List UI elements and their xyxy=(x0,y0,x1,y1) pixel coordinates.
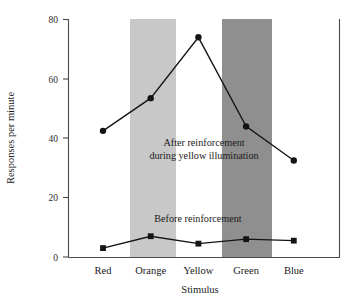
data-point-green xyxy=(243,236,249,242)
data-point-blue xyxy=(291,157,297,163)
y-axis-title: Responses per minute xyxy=(5,92,16,184)
data-point-red xyxy=(100,128,106,134)
y-tick-label-60: 60 xyxy=(49,75,59,85)
x-category-label-red: Red xyxy=(95,265,113,276)
data-point-red xyxy=(100,245,106,251)
x-category-label-green: Green xyxy=(233,265,259,276)
data-point-green xyxy=(243,123,249,129)
data-point-orange xyxy=(148,95,154,101)
y-tick-label-40: 40 xyxy=(49,134,59,144)
x-category-label-yellow: Yellow xyxy=(183,265,213,276)
chart-figure: 80 60 40 20 0 Responses per minute After… xyxy=(0,0,358,308)
line-chart-svg: 80 60 40 20 0 Responses per minute After… xyxy=(0,0,358,308)
y-tick-label-20: 20 xyxy=(49,193,59,203)
x-category-label-blue: Blue xyxy=(284,265,304,276)
before-annotation: Before reinforcement xyxy=(154,213,242,224)
y-tick-label-0: 0 xyxy=(53,253,58,263)
data-point-blue xyxy=(291,238,297,244)
after-annotation-line-2: during yellow illumination xyxy=(149,150,258,161)
data-point-yellow xyxy=(195,34,201,40)
x-category-label-orange: Orange xyxy=(135,265,166,276)
after-annotation-line-1: After reinforcement xyxy=(163,137,244,148)
y-tick-label-80: 80 xyxy=(49,15,59,25)
x-axis-title: Stimulus xyxy=(181,284,218,295)
data-point-orange xyxy=(148,233,154,239)
data-point-yellow xyxy=(196,241,202,247)
